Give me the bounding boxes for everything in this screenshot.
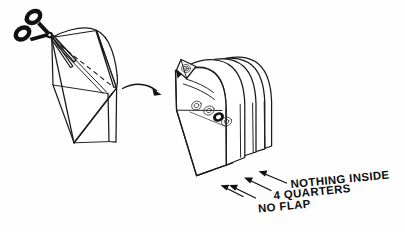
slot-edge-3 xyxy=(253,103,254,152)
scissors-pivot-hole xyxy=(48,34,51,37)
envelope-cutting-illustration: Envelope cutting preparation diagram xyxy=(0,0,405,232)
slot-edge-4 xyxy=(264,102,265,149)
illustration-canvas: Envelope cutting preparation diagram xyxy=(0,0,405,232)
